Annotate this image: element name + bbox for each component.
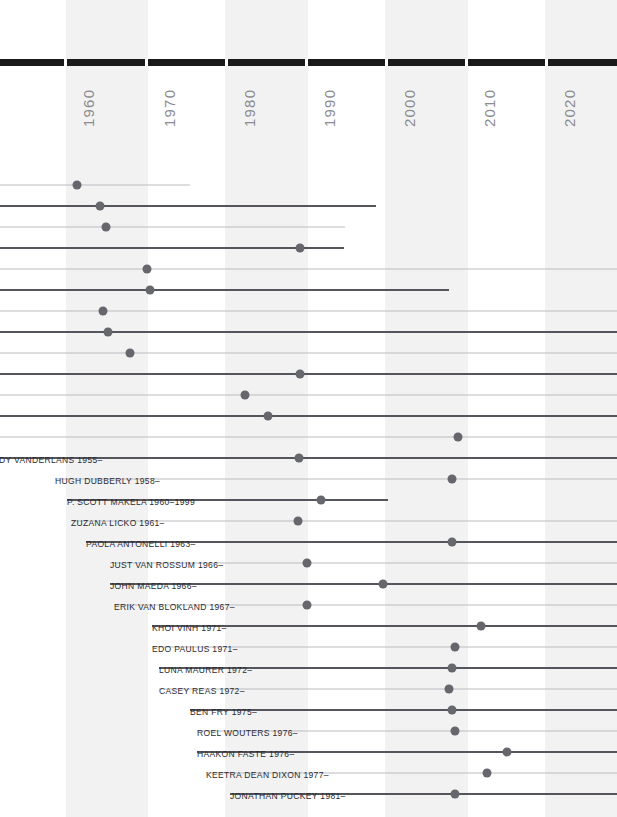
timeline-row[interactable] (0, 405, 617, 426)
axis-label-1960: 1960 (80, 89, 97, 127)
timeline-row[interactable]: BEN FRY 1975– (0, 699, 617, 720)
event-dot[interactable] (448, 474, 457, 483)
person-label: CASEY REAS 1972– (159, 686, 245, 696)
event-dot[interactable] (454, 432, 463, 441)
timeline-axis-bar (0, 59, 617, 66)
event-dot[interactable] (296, 243, 305, 252)
event-dot[interactable] (303, 600, 312, 609)
person-label: HAAKON FASTE 1976– (197, 749, 294, 759)
timeline-row[interactable] (0, 258, 617, 279)
person-label: RUDY VANDERLANS 1955– (0, 455, 103, 465)
event-dot[interactable] (448, 705, 457, 714)
event-dot[interactable] (448, 537, 457, 546)
axis-label-2000: 2000 (401, 89, 418, 127)
person-label: ZUZANA LICKO 1961– (71, 518, 165, 528)
event-dot[interactable] (294, 516, 303, 525)
person-label: HUGH DUBBERLY 1958– (55, 476, 160, 486)
lifespan-line (0, 352, 617, 353)
event-dot[interactable] (451, 726, 460, 735)
person-label: BEN FRY 1975– (190, 707, 257, 717)
event-dot[interactable] (451, 642, 460, 651)
event-dot[interactable] (503, 747, 512, 756)
event-dot[interactable] (379, 579, 388, 588)
timeline-row[interactable]: ROEL WOUTERS 1976– (0, 720, 617, 741)
timeline-row[interactable]: P. SCOTT MAKELA 1960–1999 (0, 489, 617, 510)
event-dot[interactable] (295, 453, 304, 462)
event-dot[interactable] (445, 684, 454, 693)
event-dot[interactable] (104, 327, 113, 336)
timeline-row[interactable]: CASEY REAS 1972– (0, 678, 617, 699)
person-label: ERIK VAN BLOKLAND 1967– (114, 602, 235, 612)
lifespan-line (0, 415, 617, 417)
event-dot[interactable] (143, 264, 152, 273)
person-label: KEETRA DEAN DIXON 1977– (206, 770, 329, 780)
timeline-row[interactable] (0, 216, 617, 237)
timeline-row[interactable]: JOHN MAEDA 1966– (0, 573, 617, 594)
timeline-row[interactable]: KEETRA DEAN DIXON 1977– (0, 762, 617, 783)
person-label: LUNA MAURER 1972– (159, 665, 252, 675)
timeline-row[interactable] (0, 426, 617, 447)
event-dot[interactable] (96, 201, 105, 210)
lifespan-line (0, 394, 617, 395)
timeline-row[interactable] (0, 279, 617, 300)
timeline-row[interactable]: HUGH DUBBERLY 1958– (0, 468, 617, 489)
event-dot[interactable] (102, 222, 111, 231)
timeline-row[interactable] (0, 321, 617, 342)
axis-label-1980: 1980 (241, 89, 258, 127)
timeline-row[interactable]: JUST VAN ROSSUM 1966– (0, 552, 617, 573)
timeline-row[interactable] (0, 342, 617, 363)
timeline-row[interactable]: PAOLA ANTONELLI 1963– (0, 531, 617, 552)
event-dot[interactable] (296, 369, 305, 378)
event-dot[interactable] (451, 789, 460, 798)
timeline-row[interactable]: RUDY VANDERLANS 1955– (0, 447, 617, 468)
timeline-row[interactable]: ZUZANA LICKO 1961– (0, 510, 617, 531)
axis-tick-1970 (145, 59, 148, 66)
axis-label-2020: 2020 (561, 89, 578, 127)
event-dot[interactable] (146, 285, 155, 294)
timeline-row[interactable]: KHOI VINH 1971– (0, 615, 617, 636)
event-dot[interactable] (477, 621, 486, 630)
timeline-row[interactable] (0, 300, 617, 321)
axis-label-2010: 2010 (481, 89, 498, 127)
lifespan-line (0, 289, 449, 291)
timeline-row[interactable]: HAAKON FASTE 1976– (0, 741, 617, 762)
lifespan-line (0, 310, 617, 311)
event-dot[interactable] (448, 663, 457, 672)
timeline-row[interactable]: EDO PAULUS 1971– (0, 636, 617, 657)
axis-tick-2010 (465, 59, 468, 66)
event-dot[interactable] (317, 495, 326, 504)
event-dot[interactable] (264, 411, 273, 420)
axis-tick-1990 (305, 59, 308, 66)
timeline-row[interactable]: LUNA MAURER 1972– (0, 657, 617, 678)
event-dot[interactable] (303, 558, 312, 567)
lifespan-line (0, 226, 345, 227)
timeline-row[interactable] (0, 363, 617, 384)
axis-tick-1960 (64, 59, 67, 66)
lifespan-line (0, 268, 617, 269)
timeline-row[interactable]: JONATHAN PUCKEY 1981– (0, 783, 617, 804)
event-dot[interactable] (99, 306, 108, 315)
axis-tick-2000 (385, 59, 388, 66)
timeline-row[interactable]: ERIK VAN BLOKLAND 1967– (0, 594, 617, 615)
lifespan-line (0, 247, 344, 249)
person-label: EDO PAULUS 1971– (152, 644, 238, 654)
timeline-row[interactable] (0, 195, 617, 216)
person-label: JUST VAN ROSSUM 1966– (110, 560, 223, 570)
event-dot[interactable] (483, 768, 492, 777)
axis-tick-1980 (225, 59, 228, 66)
person-label: JOHN MAEDA 1966– (110, 581, 197, 591)
lifespan-line (0, 373, 617, 375)
person-label: P. SCOTT MAKELA 1960–1999 (67, 497, 195, 507)
timeline-row[interactable] (0, 384, 617, 405)
event-dot[interactable] (126, 348, 135, 357)
lifespan-line (0, 436, 617, 437)
timeline-row[interactable] (0, 174, 617, 195)
lifespan-line (0, 184, 190, 185)
event-dot[interactable] (241, 390, 250, 399)
axis-tick-2020 (545, 59, 548, 66)
timeline-row[interactable] (0, 237, 617, 258)
axis-label-1970: 1970 (161, 89, 178, 127)
event-dot[interactable] (73, 180, 82, 189)
person-label: KHOI VINH 1971– (152, 623, 227, 633)
axis-label-1990: 1990 (321, 89, 338, 127)
